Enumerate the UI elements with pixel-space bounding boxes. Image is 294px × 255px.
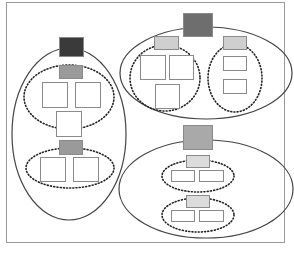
leaf-box: [224, 80, 247, 94]
leaf-box: [200, 171, 224, 182]
bottom-right-subgroup-2: [162, 196, 234, 233]
leaf-box: [141, 56, 166, 80]
subgroup-header-box: [155, 37, 179, 50]
subgroup-header-box: [224, 37, 247, 50]
leaf-box: [172, 211, 195, 222]
leaf-box: [156, 85, 180, 109]
top-right-group: [120, 14, 292, 120]
leaf-box: [57, 112, 82, 137]
subgroup-header-box: [60, 66, 83, 79]
leaf-box: [170, 56, 194, 80]
group-header-box: [60, 38, 84, 57]
left-group: [12, 38, 126, 221]
left-subgroup-2: [26, 141, 114, 189]
subgroup-header-box: [60, 141, 83, 155]
group-header-box: [184, 14, 213, 37]
bottom-right-group: [119, 126, 293, 239]
leaf-box: [74, 158, 99, 182]
leaf-box: [200, 211, 224, 222]
leaf-box: [172, 171, 195, 182]
leaf-box: [224, 57, 247, 71]
leaf-box: [76, 83, 101, 108]
leaf-box: [41, 158, 66, 182]
group-header-box: [184, 126, 213, 150]
subgroup-dotted-ellipse: [208, 44, 262, 112]
top-right-subgroup-1: [130, 37, 200, 112]
diagram-canvas: [0, 0, 294, 255]
left-subgroup-1: [24, 65, 114, 137]
bottom-right-subgroup-1: [162, 156, 234, 193]
group-ellipse: [119, 140, 293, 238]
hierarchy-diagram: [0, 0, 294, 255]
top-right-subgroup-2: [208, 37, 262, 113]
leaf-box: [43, 83, 68, 108]
subgroup-header-box: [187, 156, 210, 168]
subgroup-header-box: [187, 196, 210, 208]
